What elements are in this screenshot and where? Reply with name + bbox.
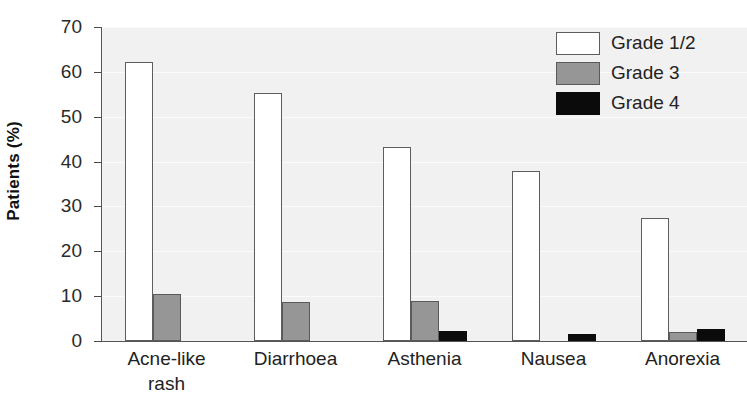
bar bbox=[697, 329, 725, 341]
bar bbox=[383, 147, 411, 341]
legend-swatch bbox=[556, 62, 600, 85]
legend-item: Grade 4 bbox=[556, 88, 741, 118]
bar bbox=[153, 294, 181, 341]
bar bbox=[669, 332, 697, 341]
bar bbox=[254, 93, 282, 341]
y-axis-tick-label: 30 bbox=[61, 195, 82, 217]
legend-item: Grade 3 bbox=[556, 58, 741, 88]
y-axis-title-text: Patients (%) bbox=[4, 121, 24, 221]
chart-legend: Grade 1/2Grade 3Grade 4 bbox=[556, 28, 741, 118]
bar bbox=[439, 331, 467, 341]
y-axis-tick-label: 60 bbox=[61, 61, 82, 83]
y-axis-tick-label: 70 bbox=[61, 16, 82, 38]
legend-swatch bbox=[556, 32, 600, 55]
x-axis-category-label: Nausea bbox=[521, 346, 587, 371]
y-axis-tick-label: 10 bbox=[61, 285, 82, 307]
bar bbox=[512, 171, 540, 341]
bar-chart-figure: Patients (%) 010203040506070 Acne-like r… bbox=[0, 0, 747, 403]
x-axis-category-label: Asthenia bbox=[388, 346, 462, 371]
y-axis-tick-label: 40 bbox=[61, 151, 82, 173]
x-axis-category-label: Diarrhoea bbox=[254, 346, 337, 371]
y-axis-tick-label: 0 bbox=[71, 330, 82, 352]
bar bbox=[568, 334, 596, 341]
x-axis-line bbox=[101, 341, 747, 342]
bar bbox=[125, 62, 153, 341]
x-axis-category-label: Acne-like rash bbox=[127, 346, 205, 396]
legend-item: Grade 1/2 bbox=[556, 28, 741, 58]
y-axis-title: Patients (%) bbox=[0, 0, 28, 341]
legend-swatch bbox=[556, 92, 600, 115]
y-axis-tick-labels: 010203040506070 bbox=[30, 0, 88, 403]
x-axis-category-labels: Acne-like rashDiarrhoeaAstheniaNauseaAno… bbox=[102, 346, 747, 403]
bar bbox=[282, 302, 310, 341]
legend-label: Grade 4 bbox=[611, 92, 680, 114]
y-axis-tick-label: 50 bbox=[61, 106, 82, 128]
bar bbox=[411, 301, 439, 341]
y-axis-tick-label: 20 bbox=[61, 240, 82, 262]
gridline bbox=[102, 162, 747, 163]
gridline bbox=[102, 206, 747, 207]
legend-label: Grade 1/2 bbox=[611, 32, 696, 54]
x-axis-category-label: Anorexia bbox=[645, 346, 720, 371]
legend-label: Grade 3 bbox=[611, 62, 680, 84]
bar bbox=[641, 218, 669, 341]
